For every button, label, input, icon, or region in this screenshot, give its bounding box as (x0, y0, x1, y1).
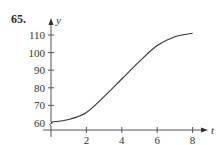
x-axis-label: t (211, 124, 215, 136)
ticks: 607080901001102468 (29, 29, 196, 145)
x-axis-arrow-icon (201, 128, 208, 133)
axis-break-icon (50, 122, 53, 126)
y-tick-label: 80 (34, 82, 46, 94)
x-tick-label: 4 (119, 134, 125, 145)
data-curve (51, 33, 193, 122)
y-axis-label: y (55, 14, 61, 26)
y-tick-label: 60 (34, 117, 46, 129)
y-tick-label: 70 (34, 99, 46, 111)
y-tick-label: 110 (29, 29, 46, 41)
x-tick-label: 6 (154, 134, 160, 145)
line-chart: yt 607080901001102468 (0, 0, 224, 145)
x-tick-label: 8 (190, 134, 196, 145)
y-axis-arrow-icon (49, 18, 54, 25)
x-tick-label: 2 (84, 134, 90, 145)
axes: yt (43, 14, 215, 137)
y-tick-label: 90 (34, 64, 46, 76)
y-tick-label: 100 (29, 47, 46, 59)
